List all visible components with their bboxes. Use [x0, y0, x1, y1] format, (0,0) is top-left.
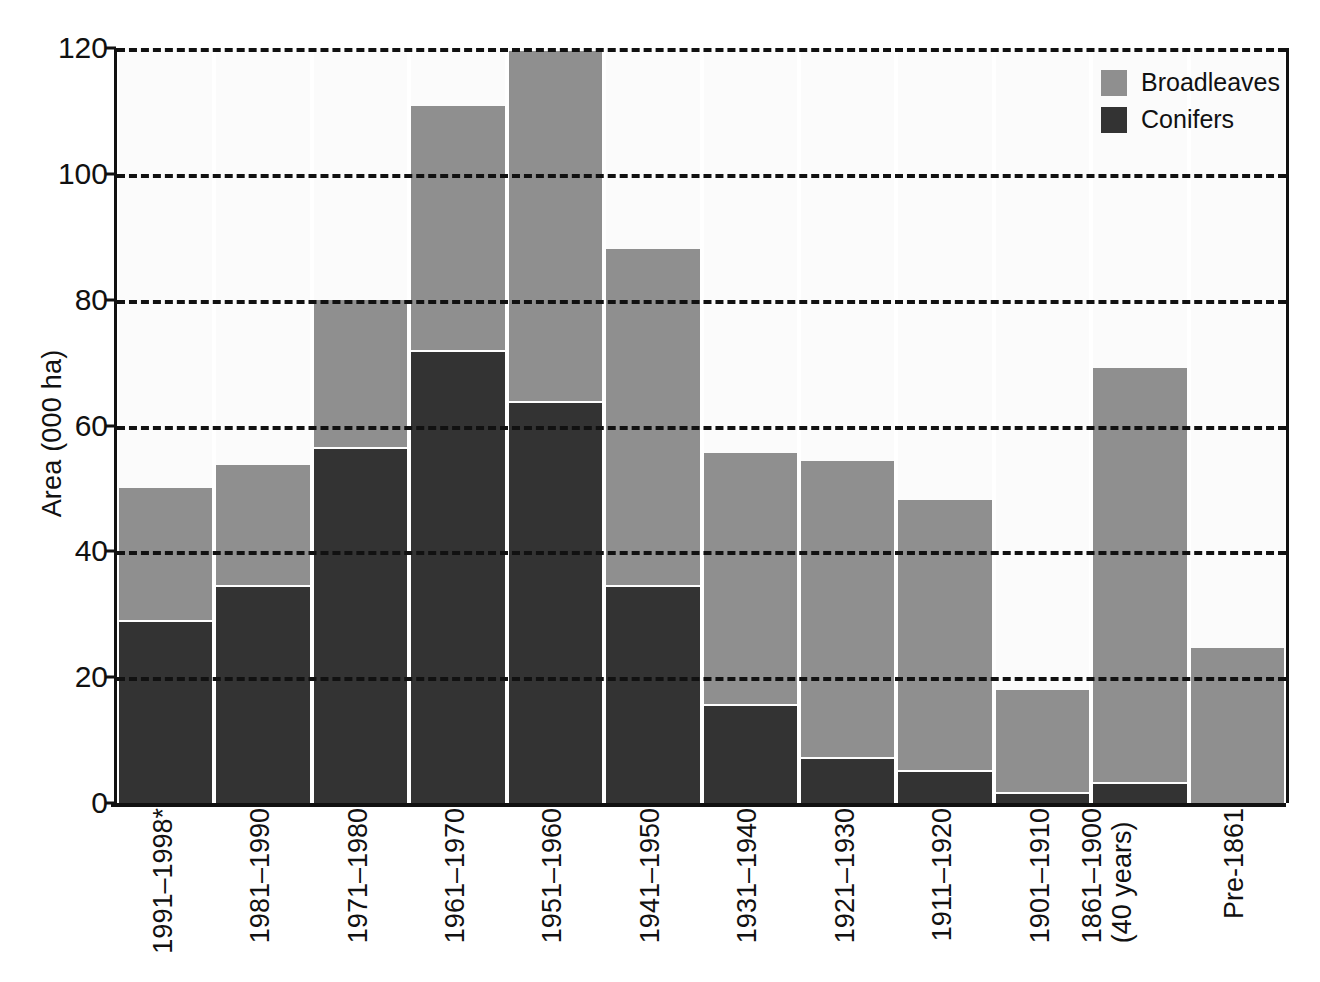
x-label-cell: 1931–1940 — [699, 808, 796, 982]
bar-series-group — [117, 48, 1286, 803]
x-tick-label: 1981–1990 — [245, 808, 275, 943]
legend-item: Conifers — [1101, 105, 1280, 134]
bar-column[interactable] — [117, 48, 214, 803]
x-label-cell: 1961–1970 — [406, 808, 503, 982]
bar-segment-broadleaves[interactable] — [314, 300, 407, 450]
x-tick-label: 1901–1910 — [1024, 808, 1054, 943]
bar-column[interactable] — [507, 48, 604, 803]
plot-area — [114, 48, 1289, 803]
x-axis-labels: 1991–1998*1981–19901971–19801961–1970195… — [114, 808, 1283, 982]
bar-column[interactable] — [896, 48, 993, 803]
legend: BroadleavesConifers — [1101, 68, 1280, 142]
y-tick-label: 20 — [75, 660, 108, 694]
bar-segment-conifers[interactable] — [801, 759, 894, 803]
x-tick-label: 1961–1970 — [440, 808, 470, 943]
x-tick-label: Pre-1861 — [1219, 808, 1249, 919]
legend-swatch-icon — [1101, 107, 1127, 133]
bar-segment-conifers[interactable] — [1093, 784, 1186, 804]
bar-segment-conifers[interactable] — [509, 403, 602, 803]
bar-segment-conifers[interactable] — [606, 587, 699, 803]
bar-column[interactable] — [214, 48, 311, 803]
bar-segment-broadleaves[interactable] — [1191, 648, 1284, 803]
x-tick-label: 1941–1950 — [635, 808, 665, 943]
bar-segment-conifers[interactable] — [898, 772, 991, 803]
y-tick-label: 100 — [58, 157, 108, 191]
stacked-bar-chart: Area (000 ha) 020406080100120 Broadleave… — [0, 0, 1320, 982]
bar-segment-conifers[interactable] — [411, 352, 504, 803]
bar-column[interactable] — [604, 48, 701, 803]
bar-segment-broadleaves[interactable] — [216, 465, 309, 587]
bar-column[interactable] — [409, 48, 506, 803]
legend-item: Broadleaves — [1101, 68, 1280, 97]
x-label-cell: 1911–1920 — [893, 808, 990, 982]
bar-segment-conifers[interactable] — [996, 794, 1089, 803]
bar-column[interactable] — [994, 48, 1091, 803]
bar-segment-conifers[interactable] — [119, 622, 212, 803]
bar-segment-conifers[interactable] — [314, 449, 407, 803]
legend-label: Conifers — [1141, 105, 1234, 134]
x-label-cell: 1981–1990 — [211, 808, 308, 982]
y-tick-label: 40 — [75, 534, 108, 568]
bar-segment-broadleaves[interactable] — [996, 690, 1089, 794]
bar-segment-broadleaves[interactable] — [411, 106, 504, 352]
x-label-cell: 1861–1900(40 years) — [1088, 808, 1185, 982]
bar-column[interactable] — [1091, 48, 1188, 803]
bar-segment-broadleaves[interactable] — [606, 249, 699, 587]
x-label-cell: 1901–1910 — [991, 808, 1088, 982]
bar-segment-broadleaves[interactable] — [801, 461, 894, 759]
x-tick-label: 1861–1900(40 years) — [1076, 808, 1136, 943]
bar-column[interactable] — [799, 48, 896, 803]
y-tick-label: 120 — [58, 31, 108, 65]
y-tick-label: 80 — [75, 283, 108, 317]
x-tick-label: 1951–1960 — [537, 808, 567, 943]
bar-segment-conifers[interactable] — [216, 587, 309, 803]
x-label-cell: 1941–1950 — [601, 808, 698, 982]
x-tick-label: 1971–1980 — [342, 808, 372, 943]
x-label-cell: Pre-1861 — [1186, 808, 1283, 982]
bar-column[interactable] — [702, 48, 799, 803]
bar-segment-broadleaves[interactable] — [509, 51, 602, 403]
bar-segment-broadleaves[interactable] — [1093, 368, 1186, 783]
x-tick-label: 1921–1930 — [830, 808, 860, 943]
x-label-cell: 1951–1960 — [504, 808, 601, 982]
bar-segment-broadleaves[interactable] — [119, 488, 212, 622]
bar-column[interactable] — [1189, 48, 1286, 803]
x-axis-line — [111, 803, 1286, 807]
bar-segment-broadleaves[interactable] — [704, 453, 797, 707]
x-label-cell: 1921–1930 — [796, 808, 893, 982]
legend-label: Broadleaves — [1141, 68, 1280, 97]
x-tick-label: 1931–1940 — [732, 808, 762, 943]
bar-column[interactable] — [312, 48, 409, 803]
x-label-cell: 1991–1998* — [114, 808, 211, 982]
bar-segment-broadleaves[interactable] — [898, 500, 991, 772]
x-label-cell: 1971–1980 — [309, 808, 406, 982]
bar-segment-conifers[interactable] — [704, 706, 797, 803]
x-tick-label: 1911–1920 — [927, 808, 957, 941]
x-tick-label: 1991–1998* — [148, 808, 178, 954]
legend-swatch-icon — [1101, 70, 1127, 96]
y-tick-label: 60 — [75, 409, 108, 443]
